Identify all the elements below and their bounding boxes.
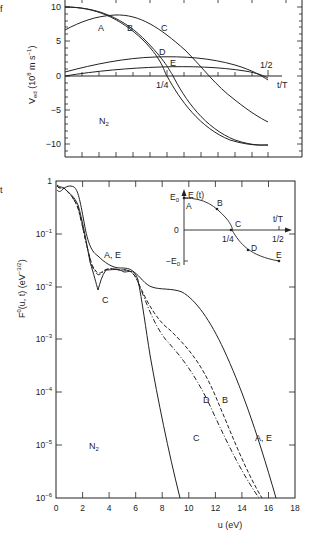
top-y-axis-label: Ved (108 m s−1): [26, 46, 38, 104]
label-C-top: C: [102, 295, 109, 305]
label-E: E: [170, 58, 176, 68]
ytick-1e-2: 10−2: [36, 281, 53, 292]
inset-point-E: E: [276, 250, 282, 260]
curve-C: [57, 185, 180, 498]
ytick-neg10: −10: [46, 139, 61, 149]
curve-D: [65, 57, 268, 80]
top-x-ticks: [82, 0, 286, 157]
ytick-1e-5: 10−5: [36, 439, 53, 450]
ytick-0: 0: [56, 71, 61, 81]
bottom-panel: t 1 10−1 10−2 10−3 10−4 10−5 10−6 F0(u, …: [0, 176, 300, 530]
label-B: B: [222, 395, 228, 405]
inset-x-half: 1/2: [272, 234, 284, 244]
inset-zero-label: 0: [174, 225, 179, 235]
ytick-1e-6: 10−6: [36, 492, 53, 503]
bottom-curve-labels: A, E C D B C A, E: [102, 250, 272, 443]
ytick-1e-3: 10−3: [36, 333, 53, 344]
ytick-neg5: −5: [51, 105, 61, 115]
figure: f: [0, 0, 312, 553]
inset-x-axis-label: t/T: [273, 214, 283, 224]
xtick-2: 2: [80, 503, 85, 513]
xtick-6: 6: [133, 503, 138, 513]
label-AE-bottom: A, E: [255, 433, 272, 443]
ytick-1e-1: 10−1: [36, 228, 53, 239]
top-x-axis-label: t/T: [277, 80, 288, 90]
ytick-5: 5: [56, 36, 61, 46]
inset-x-quarter: 1/4: [222, 234, 234, 244]
curve-AE: [57, 186, 276, 498]
inset-chart: E (t) E0 0 −E0 t/T 1/4 1/2 A B C D E: [166, 189, 292, 267]
ytick-10: 10: [51, 2, 61, 12]
side-mark-top: f: [0, 4, 3, 14]
xtick-18: 18: [290, 503, 300, 513]
label-D: D: [159, 47, 166, 57]
bottom-x-axis-label: u (eV): [218, 520, 243, 530]
ytick-1e-4: 10−4: [36, 386, 53, 397]
inset-y-axis-label: E (t): [188, 190, 204, 200]
inset-e0-label: E0: [170, 192, 180, 203]
xtick-16: 16: [264, 503, 274, 513]
top-y-tick-labels: 10 5 0 −5 −10: [46, 2, 61, 149]
xtick-8: 8: [160, 503, 165, 513]
inset-point-A: A: [186, 201, 192, 211]
bottom-gas-label: N2: [89, 441, 100, 452]
inset-points: [183, 197, 281, 263]
xtick-0: 0: [54, 503, 59, 513]
top-panel: f: [0, 0, 302, 157]
inset-x-arrow-icon: [285, 228, 292, 233]
xtick-14: 14: [237, 503, 247, 513]
bottom-y-axis-label: F0(u, t) (eV−3/2): [16, 259, 27, 318]
inset-point-D: D: [251, 243, 257, 253]
label-B: B: [127, 23, 133, 33]
inset-y-arrow-icon: [182, 189, 187, 196]
label-C-bottom: C: [193, 433, 200, 443]
inset-point-C: C: [235, 219, 241, 229]
label-C: C: [161, 23, 168, 33]
curve-D: [57, 186, 259, 498]
xtick-4: 4: [107, 503, 112, 513]
bottom-y-tick-labels: 1 10−1 10−2 10−3 10−4 10−5 10−6: [36, 176, 53, 503]
x-label-quarter: 1/4: [156, 80, 169, 90]
top-y-ticks-right: [297, 7, 302, 151]
ytick-1: 1: [47, 176, 52, 186]
inset-point-B: B: [217, 198, 223, 208]
inset-neg-e0-label: −E0: [166, 256, 181, 267]
label-D: D: [203, 395, 210, 405]
bottom-curves: [57, 185, 276, 498]
label-A: A: [98, 23, 104, 33]
label-AE-top: A, E: [104, 250, 121, 260]
xtick-10: 10: [184, 503, 194, 513]
xtick-12: 12: [211, 503, 221, 513]
x-label-half: 1/2: [260, 60, 273, 70]
top-curve-labels: A B C D E: [98, 23, 176, 68]
side-mark-bottom: t: [0, 185, 3, 195]
bottom-x-tick-labels: 0 2 4 6 8 10 12 14 16 18: [54, 503, 300, 513]
top-gas-label: N2: [99, 116, 110, 127]
